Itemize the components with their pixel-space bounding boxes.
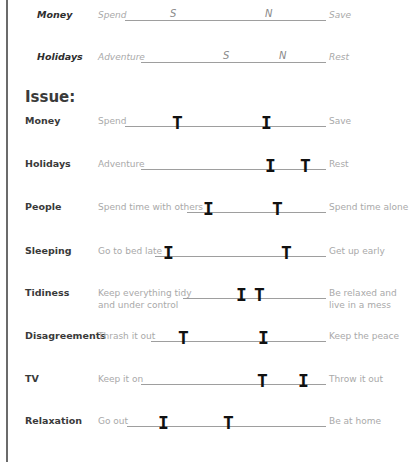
scale-category-label: Holidays [37, 51, 83, 62]
scale-category-label: Tidiness [25, 287, 69, 298]
scale-right-label: Save [329, 9, 351, 21]
handwritten-mark-t-icon[interactable]: T [254, 284, 265, 305]
handwritten-mark-t-icon[interactable]: T [257, 370, 268, 391]
scale-category-label: TV [25, 373, 39, 384]
scale-right-label: Be at home [329, 415, 381, 427]
scale-left-label: Spend [98, 9, 126, 21]
scale-line[interactable] [125, 126, 326, 127]
scale-line[interactable] [141, 169, 326, 170]
handwritten-mark-i-icon[interactable]: I [261, 112, 272, 133]
handwritten-mark-t-icon[interactable]: T [178, 327, 189, 348]
handwritten-mark-i-icon[interactable]: I [298, 370, 309, 391]
scale-left-label: Thrash it out [98, 330, 155, 342]
scale-category-label: Money [25, 115, 60, 126]
scale-right-label: Get up early [329, 245, 385, 257]
handwritten-mark-i-icon[interactable]: I [265, 155, 276, 176]
scale-left-label: Keep everything tidyand under control [98, 287, 192, 311]
handwritten-mark-t-icon[interactable]: T [172, 112, 183, 133]
scale-category-label: Disagreements [25, 330, 106, 341]
scale-line[interactable] [155, 256, 326, 257]
scale-right-label: Rest [329, 51, 349, 63]
scale-category-label: Relaxation [25, 415, 82, 426]
handwritten-mark-t-icon[interactable]: T [281, 242, 292, 263]
example-mark-n: N [265, 8, 272, 19]
example-mark-n: N [279, 50, 286, 61]
example-mark-s: S [223, 50, 229, 61]
scale-right-label: Rest [329, 158, 349, 170]
page-left-border [6, 0, 8, 462]
handwritten-mark-i-icon[interactable]: I [203, 198, 214, 219]
handwritten-mark-t-icon[interactable]: T [272, 198, 283, 219]
scale-left-label: Adventure [98, 51, 145, 63]
scale-right-label: Throw it out [329, 373, 383, 385]
scale-category-label: Sleeping [25, 245, 72, 256]
scale-right-label: Save [329, 115, 351, 127]
handwritten-mark-i-icon[interactable]: I [236, 284, 247, 305]
scale-line[interactable] [141, 62, 326, 63]
handwritten-mark-i-icon[interactable]: I [258, 327, 269, 348]
scale-right-label: Spend time alone [329, 201, 408, 213]
scale-left-label: Go out [98, 415, 128, 427]
example-mark-s: S [170, 8, 176, 19]
handwritten-mark-i-icon[interactable]: I [158, 412, 169, 433]
handwritten-mark-t-icon[interactable]: T [300, 155, 311, 176]
scale-right-label: Keep the peace [329, 330, 399, 342]
handwritten-mark-i-icon[interactable]: I [163, 242, 174, 263]
scale-right-label: Be relaxed andlive in a mess [329, 287, 397, 311]
scale-category-label: Money [37, 9, 72, 20]
scale-category-label: People [25, 201, 61, 212]
scale-left-label: Go to bed late [98, 245, 162, 257]
scale-left-label: Spend [98, 115, 126, 127]
issue-heading: Issue: [25, 88, 75, 106]
scale-left-label: Keep it on [98, 373, 143, 385]
scale-line[interactable] [125, 20, 326, 21]
scale-left-label: Adventure [98, 158, 145, 170]
handwritten-mark-t-icon[interactable]: T [223, 412, 234, 433]
scale-category-label: Holidays [25, 158, 71, 169]
